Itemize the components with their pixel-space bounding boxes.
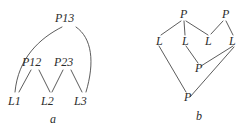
- node-label-p12: P12: [22, 56, 41, 68]
- node-label-p-mid: P: [195, 62, 202, 74]
- edge-p12-l2: [39, 70, 50, 92]
- edge-ptr-l4: [226, 21, 233, 35]
- node-label-l-1: L: [156, 35, 163, 47]
- panel-a-caption: a: [50, 113, 56, 125]
- edge-ptr-l3: [211, 21, 223, 34]
- node-label-l1: L1: [8, 95, 21, 107]
- node-label-p-top-right: P: [222, 8, 229, 20]
- edge-p13-l3: [76, 27, 91, 92]
- diagram-panel-b: P P L L L L P P b: [124, 0, 248, 131]
- node-label-p-top-left: P: [180, 8, 187, 20]
- edge-ptl-l1: [161, 21, 181, 35]
- edge-p12-l1: [19, 70, 31, 92]
- node-label-l-2: L: [182, 35, 189, 47]
- node-label-p23: P23: [54, 56, 73, 68]
- edge-p23-l3: [71, 70, 82, 92]
- edge-l4-pmid: [201, 46, 233, 66]
- node-label-l2: L2: [41, 95, 54, 107]
- edge-ptl-l2: [184, 21, 185, 35]
- diagram-panel-a: P13 P12 P23 L1 L2 L3 a: [0, 0, 124, 131]
- node-label-p-bottom: P: [184, 91, 191, 103]
- figure-canvas: P13 P12 P23 L1 L2 L3 a: [0, 0, 248, 131]
- node-label-l-3: L: [205, 35, 212, 47]
- edge-ptl-l3: [186, 21, 208, 35]
- node-label-l3: L3: [74, 95, 87, 107]
- edge-l1-pbottom: [159, 46, 186, 92]
- panel-b-caption: b: [196, 110, 202, 122]
- node-label-l-4: L: [229, 35, 236, 47]
- edge-p23-l2: [52, 70, 63, 92]
- node-label-p13: P13: [55, 12, 74, 24]
